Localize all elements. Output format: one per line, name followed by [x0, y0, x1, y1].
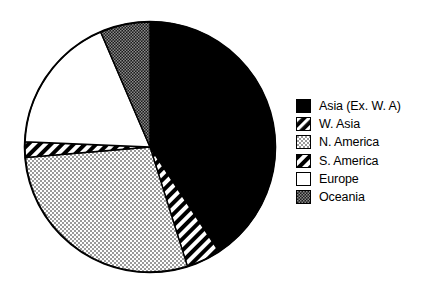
legend-swatch-icon [296, 117, 311, 131]
legend-swatch-icon [296, 135, 311, 149]
legend-item[interactable]: N. America [296, 133, 436, 151]
legend-item-label: W. Asia [319, 117, 360, 131]
legend-item-label: Asia (Ex. W. A) [319, 99, 401, 113]
legend-item[interactable]: Asia (Ex. W. A) [296, 97, 436, 115]
legend-swatch-icon [296, 154, 311, 168]
legend-swatch-icon [296, 172, 311, 186]
legend-item-label: N. America [319, 135, 379, 149]
legend-item[interactable]: Europe [296, 170, 436, 188]
pie-chart-figure: Asia (Ex. W. A)W. AsiaN. AmericaS. Ameri… [0, 0, 440, 290]
legend-item[interactable]: S. America [296, 152, 436, 170]
chart-legend: Asia (Ex. W. A)W. AsiaN. AmericaS. Ameri… [296, 97, 436, 206]
legend-swatch-icon [296, 190, 311, 204]
legend-item-label: Europe [319, 172, 359, 186]
legend-item[interactable]: Oceania [296, 188, 436, 206]
legend-item[interactable]: W. Asia [296, 115, 436, 133]
legend-swatch-icon [296, 99, 311, 113]
pie-slices-group [25, 22, 275, 272]
legend-item-label: Oceania [319, 190, 365, 204]
legend-item-label: S. America [319, 154, 378, 168]
